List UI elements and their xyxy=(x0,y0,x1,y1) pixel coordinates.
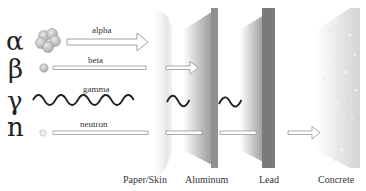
alpha-particle-icon xyxy=(36,29,61,53)
radiation-penetration-diagram: α β γ n xyxy=(0,0,366,191)
diagram-canvas: alpha beta gamma neutron xyxy=(0,0,366,191)
neutron-track-3 xyxy=(220,131,256,135)
beta-label: beta xyxy=(88,55,103,65)
neutron-particle-icon xyxy=(40,130,46,136)
gamma-wave-icon xyxy=(33,95,134,105)
gamma-label: gamma xyxy=(83,84,110,94)
beta-particle-icon xyxy=(40,64,48,72)
concrete-barrier xyxy=(316,8,360,168)
neutron-track-2 xyxy=(166,131,202,135)
lead-barrier xyxy=(240,8,275,168)
alpha-arrow-icon xyxy=(67,33,148,51)
material-label-concrete: Concrete xyxy=(318,174,354,185)
neutron-label: neutron xyxy=(80,119,108,129)
material-label-paper-skin: Paper/Skin xyxy=(123,174,167,185)
alpha-label: alpha xyxy=(92,25,112,35)
paper-skin-barrier xyxy=(150,8,172,178)
beta-track xyxy=(53,66,146,70)
material-label-aluminum: Aluminum xyxy=(185,174,228,185)
gamma-wave-segment-3 xyxy=(219,97,241,106)
material-label-lead: Lead xyxy=(259,174,279,185)
aluminum-barrier xyxy=(183,8,218,168)
neutron-arrow-icon xyxy=(288,127,320,140)
neutron-track-1 xyxy=(53,131,148,135)
